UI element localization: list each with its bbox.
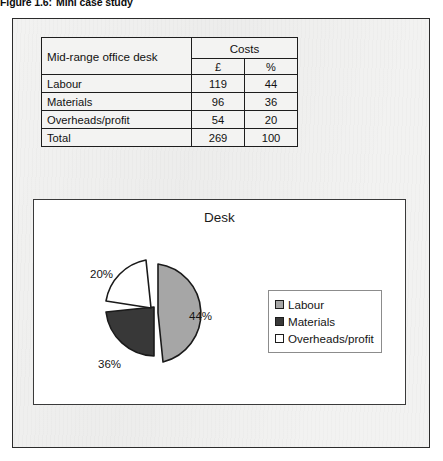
row-percent: 44 <box>245 75 298 93</box>
pie-label-materials: 36% <box>98 358 121 370</box>
chart-title: Desk <box>34 210 405 225</box>
row-pounds: 96 <box>192 93 245 111</box>
row-percent: 100 <box>245 129 298 147</box>
legend-label: Materials <box>288 316 335 328</box>
table-header-costs: Costs <box>192 38 298 59</box>
row-percent: 36 <box>245 93 298 111</box>
legend-swatch-icon <box>275 317 284 326</box>
pie-slice-materials <box>106 307 154 356</box>
cost-breakdown-table: Mid-range office desk Costs £ % Labour 1… <box>41 37 298 147</box>
legend-item-materials: Materials <box>275 313 374 330</box>
row-pounds: 54 <box>192 111 245 129</box>
row-label: Overheads/profit <box>42 111 192 129</box>
legend-swatch-icon <box>275 334 284 343</box>
table-row: Materials 96 36 <box>42 93 298 111</box>
pie-label-labour: 44% <box>189 310 212 322</box>
table-header-item-label: Mid-range office desk <box>42 38 192 75</box>
pie-chart-panel: Desk 20% 44% 36% Labour Materials Overhe… <box>33 199 406 405</box>
row-percent: 20 <box>245 111 298 129</box>
row-pounds: 269 <box>192 129 245 147</box>
table-subheader-percent: % <box>245 59 298 75</box>
figure-number: Figure 1.6: <box>0 0 52 8</box>
row-label: Materials <box>42 93 192 111</box>
table-row-total: Total 269 100 <box>42 129 298 147</box>
legend-label: Overheads/profit <box>288 333 374 345</box>
figure-caption-text: Mini case study <box>56 0 133 8</box>
legend-label: Labour <box>288 299 324 311</box>
table-row: Labour 119 44 <box>42 75 298 93</box>
row-label: Labour <box>42 75 192 93</box>
chart-legend: Labour Materials Overheads/profit <box>268 290 382 353</box>
row-label: Total <box>42 129 192 147</box>
legend-item-labour: Labour <box>275 296 374 313</box>
table-header-row: Mid-range office desk Costs <box>42 38 298 59</box>
row-pounds: 119 <box>192 75 245 93</box>
table-row: Overheads/profit 54 20 <box>42 111 298 129</box>
pie-label-overheads: 20% <box>90 268 113 280</box>
legend-item-overheads: Overheads/profit <box>275 330 374 347</box>
legend-swatch-icon <box>275 300 284 309</box>
table-subheader-pounds: £ <box>192 59 245 75</box>
figure-caption: Figure 1.6:Mini case study <box>0 0 133 8</box>
